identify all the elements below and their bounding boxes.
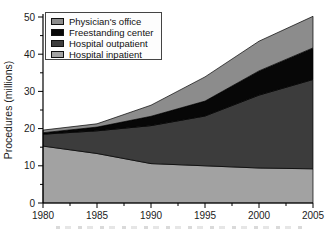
y-tick-label: 40 — [24, 49, 36, 60]
legend-item-label: Hospital inpatient — [69, 49, 142, 60]
y-tick-label: 0 — [29, 198, 35, 209]
x-tick-label: 2000 — [248, 210, 271, 221]
legend-swatch-icon — [51, 29, 64, 36]
legend-swatch-icon — [51, 40, 64, 47]
legend-swatch-icon — [51, 18, 64, 25]
x-tick-label: 2005 — [302, 210, 325, 221]
y-axis-title: Procedures (millions) — [2, 61, 14, 160]
y-tick-label: 20 — [24, 123, 36, 134]
legend-item: Physician's office — [51, 16, 161, 27]
x-tick-label: 1980 — [32, 210, 55, 221]
legend-item: Hospital outpatient — [51, 38, 161, 49]
legend-item-label: Physician's office — [69, 16, 141, 27]
y-tick-label: 10 — [24, 160, 36, 171]
legend-item: Freestanding center — [51, 27, 161, 38]
legend-swatch-icon — [51, 51, 64, 58]
y-tick-label: 30 — [24, 86, 36, 97]
y-tick-label: 50 — [24, 12, 36, 23]
legend-item: Hospital inpatient — [51, 49, 161, 60]
legend-item-label: Freestanding center — [69, 27, 154, 38]
legend: Physician's office Freestanding center H… — [45, 12, 162, 60]
stacked-area-chart-figure: 01020304050198019851990199520002005 Proc… — [0, 0, 331, 231]
x-tick-label: 1990 — [140, 210, 163, 221]
x-tick-label: 1995 — [194, 210, 217, 221]
x-tick-label: 1985 — [86, 210, 109, 221]
cropped-caption-fragment — [56, 226, 304, 229]
legend-item-label: Hospital outpatient — [69, 38, 148, 49]
